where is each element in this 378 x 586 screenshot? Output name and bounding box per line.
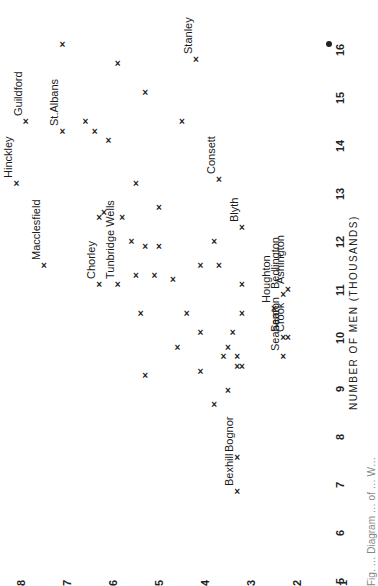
data-point-marker: × [238,281,246,289]
point-label: Tunbridge Wells [104,200,116,279]
data-point-marker: × [169,276,177,284]
x-tick-label: 11 [334,284,346,296]
point-label: Seaham [269,310,281,351]
y-tick-label: 6 [107,580,119,586]
data-point-marker: × [215,176,223,184]
data-point-marker: × [279,353,287,361]
data-point-marker: × [183,310,191,318]
y-tick-label: 5 [153,580,165,586]
data-point-marker: × [192,56,200,64]
data-point-marker: × [127,238,135,246]
data-point-marker: × [118,214,126,222]
filled-dot-marker [326,41,332,47]
point-label: Bognor [223,417,235,452]
data-point-marker: × [141,372,149,380]
data-point-marker: × [58,128,66,136]
data-point-marker: × [238,310,246,318]
point-label: Blyth [228,197,240,221]
point-label: Guildford [12,71,24,116]
x-tick-label: 7 [334,482,346,488]
x-tick-label: 14 [334,140,346,152]
data-point-marker: × [284,286,292,294]
data-point-marker: × [114,281,122,289]
point-label: St.Albans [48,79,60,126]
data-point-marker: × [155,243,163,251]
data-point-marker: × [238,363,246,371]
data-point-marker: × [215,262,223,270]
data-point-marker: × [58,41,66,49]
data-point-marker: × [114,60,122,68]
data-point-marker: × [196,262,204,270]
data-point-marker: × [95,281,103,289]
x-tick-label: 12 [334,236,346,248]
y-tick-label: 7 [61,580,73,586]
data-point-marker: × [196,368,204,376]
data-point-marker: × [81,118,89,126]
point-label: Chorley [85,241,97,279]
point-label: Ashington [274,235,286,284]
data-point-marker: × [150,272,158,280]
data-point-marker: × [210,238,218,246]
x-tick-label: 13 [334,188,346,200]
scatter-plot: NUMBER OF MEN (THOUSANDS) Fig. … Diagram… [0,0,378,586]
data-point-marker: × [219,353,227,361]
point-label: Hinckley [2,137,14,179]
data-point-marker: × [91,128,99,136]
data-point-marker: × [155,204,163,212]
point-label: Stanley [182,17,194,54]
data-point-marker: × [224,387,232,395]
data-point-marker: × [12,180,20,188]
y-tick-label: 4 [199,580,211,586]
data-point-marker: × [210,401,218,409]
x-tick-label: 8 [334,434,346,440]
y-tick-label: 1 [337,580,349,586]
y-tick-label: 8 [15,580,27,586]
data-point-marker: × [229,329,237,337]
data-point-marker: × [132,180,140,188]
data-point-marker: × [196,329,204,337]
data-point-marker: × [178,118,186,126]
data-point-marker: × [173,344,181,352]
data-point-marker: × [141,243,149,251]
x-tick-label: 9 [334,386,346,392]
x-tick-label: 10 [334,332,346,344]
data-point-marker: × [40,262,48,270]
point-label: Macclesfield [30,199,42,260]
data-point-marker: × [284,334,292,342]
data-point-marker: × [141,89,149,97]
data-point-marker: × [132,272,140,280]
data-point-marker: × [233,488,241,496]
data-point-marker: × [137,310,145,318]
x-tick-label: 15 [334,92,346,104]
figure-caption: Fig. … Diagram … of … W… [366,457,377,586]
data-point-marker: × [233,454,241,462]
data-point-marker: × [233,353,241,361]
y-tick-label: 2 [291,580,303,586]
x-tick-label: 16 [334,44,346,56]
data-point-marker: × [104,137,112,145]
point-label: Consett [205,136,217,174]
y-tick-label: 3 [245,580,257,586]
x-axis-label: NUMBER OF MEN (THOUSANDS) [348,215,359,410]
x-tick-label: 6 [334,530,346,536]
data-point-marker: × [22,118,30,126]
data-point-marker: × [238,224,246,232]
